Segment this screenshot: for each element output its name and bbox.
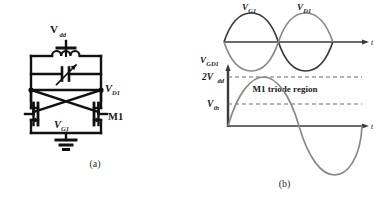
upper-plot: t V G1 V D1 bbox=[224, 2, 374, 71]
waveform-panel: t V G1 V D1 V GD1 bbox=[190, 0, 379, 203]
ytick-label-2vdd: 2V bbox=[201, 72, 214, 82]
circuit-schematic-svg: V dd V D1 V G1 M1 bbox=[0, 0, 190, 160]
lower-y-axis-label-subscript: GD1 bbox=[206, 60, 219, 67]
vdd-label: V bbox=[50, 23, 58, 35]
lower-plot: V GD1 t 2V dd V th M1 triode region bbox=[200, 55, 374, 175]
upper-t-axis-label: t bbox=[371, 38, 374, 47]
m1-label: M1 bbox=[108, 111, 123, 122]
waveform-svg: t V G1 V D1 V GD1 bbox=[190, 0, 379, 178]
vd1-curve-label-subscript: D1 bbox=[302, 7, 311, 14]
figure-root: V dd V D1 V G1 M1 (a) t bbox=[0, 0, 379, 203]
vdd-label-subscript: dd bbox=[60, 31, 67, 38]
ytick-label-vth-subscript: th bbox=[214, 104, 220, 111]
lower-y-axis-arrowhead bbox=[225, 64, 230, 71]
lower-t-axis-arrowhead bbox=[362, 123, 369, 128]
caption-b: (b) bbox=[190, 178, 379, 189]
vg1-curve-label-subscript: G1 bbox=[248, 7, 256, 14]
upper-t-axis-arrowhead bbox=[362, 39, 369, 44]
caption-a: (a) bbox=[0, 158, 190, 169]
lower-t-axis-label: t bbox=[371, 122, 374, 131]
vg1-label-subscript: G1 bbox=[61, 125, 69, 132]
ytick-label-2vdd-subscript: dd bbox=[218, 77, 225, 84]
circuit-schematic-panel: V dd V D1 V G1 M1 (a) bbox=[0, 0, 190, 203]
vd1-label-subscript: D1 bbox=[111, 89, 120, 96]
